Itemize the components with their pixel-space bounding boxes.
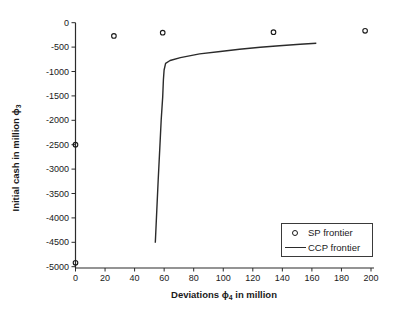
chart-figure: 0-500-1000-1500-2000-2500-3000-3500-4000… — [0, 0, 397, 312]
y-tick-label: -2000 — [46, 115, 69, 125]
legend-item-ccp-frontier: CCP frontier — [282, 241, 372, 254]
chart-svg: 0-500-1000-1500-2000-2500-3000-3500-4000… — [0, 0, 397, 312]
y-tick-label: -5000 — [46, 262, 69, 272]
sp-frontier-point — [363, 29, 368, 34]
x-tick-label: 20 — [100, 273, 110, 283]
open-circle-marker-icon — [292, 230, 298, 236]
x-tick-label: 140 — [275, 273, 290, 283]
ccp-frontier-series — [155, 43, 316, 243]
sp-frontier-point — [271, 30, 276, 35]
x-axis-label-suffix: in million — [233, 289, 277, 300]
legend-label-sp-frontier: SP frontier — [308, 227, 353, 238]
y-tick-label: -1000 — [46, 67, 69, 77]
x-tick-label: 180 — [334, 273, 349, 283]
legend-marker-col — [282, 247, 308, 248]
legend: SP frontier CCP frontier — [281, 223, 373, 257]
x-tick-label: 80 — [189, 273, 199, 283]
legend-item-sp-frontier: SP frontier — [282, 226, 372, 239]
y-axis-label: Initial cash in million ϕ3 — [10, 104, 23, 211]
phi-symbol: ϕ — [222, 289, 229, 300]
phi-symbol: ϕ — [10, 108, 21, 115]
y-tick-label: -2500 — [46, 140, 69, 150]
y-tick-label: -3500 — [46, 189, 69, 199]
legend-marker-col — [282, 230, 308, 236]
x-tick-label: 40 — [130, 273, 140, 283]
y-tick-label: 0 — [64, 18, 69, 28]
legend-label-ccp-frontier: CCP frontier — [308, 242, 360, 253]
sp-frontier-point — [112, 34, 117, 39]
y-tick-label: -4500 — [46, 237, 69, 247]
x-tick-label: 200 — [363, 273, 378, 283]
line-marker-icon — [285, 247, 306, 248]
x-tick-label: 0 — [73, 273, 78, 283]
y-tick-label: -3000 — [46, 164, 69, 174]
y-axis-label-text: Initial cash in million — [10, 115, 21, 211]
x-tick-label: 60 — [159, 273, 169, 283]
y-tick-label: -1500 — [46, 91, 69, 101]
x-tick-label: 100 — [216, 273, 231, 283]
x-tick-label: 120 — [245, 273, 260, 283]
y-tick-label: -4000 — [46, 213, 69, 223]
y-tick-label: -500 — [51, 42, 69, 52]
phi-subscript: 3 — [15, 104, 22, 108]
x-axis-label-text: Deviations — [171, 289, 222, 300]
ccp-frontier-line — [155, 43, 316, 243]
x-axis-label: Deviations ϕ4 in million — [171, 289, 277, 302]
sp-frontier-point — [160, 30, 165, 35]
x-tick-label: 160 — [304, 273, 319, 283]
